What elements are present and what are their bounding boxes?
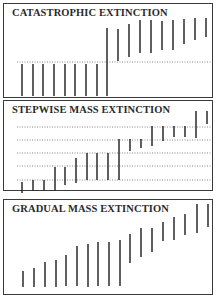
range-bars-plot [0, 0, 218, 297]
